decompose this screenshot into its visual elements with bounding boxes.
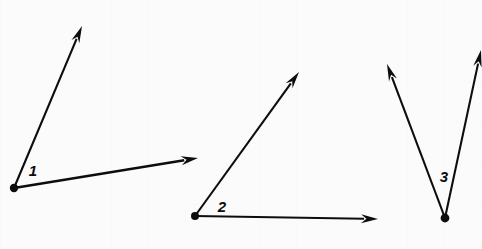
angle-group-2: 2 (191, 72, 378, 223)
angle-label-1: 1 (29, 162, 37, 179)
vertex-dot-1 (10, 184, 18, 192)
angle-label-3: 3 (440, 168, 449, 185)
ray-2-upper-arrowhead-icon (286, 72, 299, 88)
angle-group-3: 3 (387, 50, 482, 222)
vertex-dot-2 (191, 212, 199, 220)
ray-1-right-line (14, 160, 184, 188)
ray-3-left-line (392, 77, 445, 218)
ray-2-right-line (195, 216, 364, 219)
angles-figure: 1 2 3 (0, 0, 482, 249)
angles-diagram-canvas: 1 2 3 (0, 0, 482, 249)
angle-label-2: 2 (217, 198, 227, 215)
vertex-dot-3 (441, 214, 450, 223)
angle-group-1: 1 (10, 26, 198, 192)
ray-1-upper-line (14, 39, 77, 188)
ray-2-upper-line (195, 83, 291, 216)
ray-3-right-line (445, 64, 478, 218)
